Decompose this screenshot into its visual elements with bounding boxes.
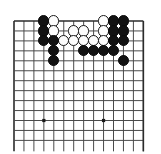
black-stone[interactable] xyxy=(118,35,129,46)
stone-layer xyxy=(0,0,161,154)
black-stone[interactable] xyxy=(48,55,59,66)
go-board[interactable] xyxy=(0,0,161,154)
black-stone[interactable] xyxy=(118,55,129,66)
black-stone[interactable] xyxy=(108,45,119,56)
go-diagram-screenshot xyxy=(0,0,161,154)
